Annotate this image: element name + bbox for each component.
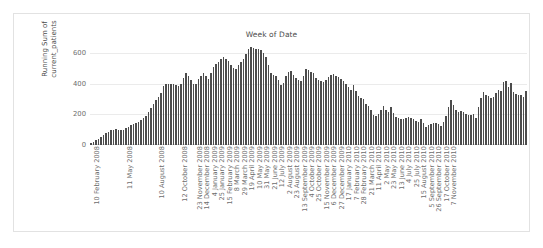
bar-series	[90, 44, 527, 145]
y-axis-tick-label: 600	[73, 49, 86, 57]
y-axis-tick-label: 200	[73, 110, 86, 118]
chart-title: Week of Date	[14, 30, 529, 39]
x-axis-tick-label: 7 November 2010	[451, 146, 458, 205]
screenshot-root: Week of Date Running Sum of current_pati…	[0, 0, 543, 248]
x-axis-tick-label: 10 August 2008	[159, 146, 166, 198]
x-axis-tick-label: 19 April 2009	[249, 146, 256, 190]
x-axis-tick-labels: 10 February 200811 May 200810 August 200…	[90, 146, 527, 230]
visualization-frame: Week of Date Running Sum of current_pati…	[13, 13, 530, 232]
x-axis-tick-label: 31 May 2009	[264, 146, 271, 189]
x-axis-tick-label: 12 July 2009	[279, 146, 286, 187]
y-axis-tick-label: 400	[73, 80, 86, 88]
x-axis-tick-label: 10 February 2008	[94, 146, 101, 205]
x-axis-tick-label: 12 October 2008	[182, 146, 189, 202]
plot-area: 0200400600	[90, 44, 527, 145]
bar[interactable]	[525, 91, 527, 145]
x-axis-tick-label: 23 August 2009	[294, 146, 301, 198]
x-axis-tick-label: 11 May 2008	[127, 146, 134, 189]
y-axis-title: Running Sum of current_patients	[41, 1, 55, 97]
y-axis-tick-label: 0	[82, 141, 86, 149]
